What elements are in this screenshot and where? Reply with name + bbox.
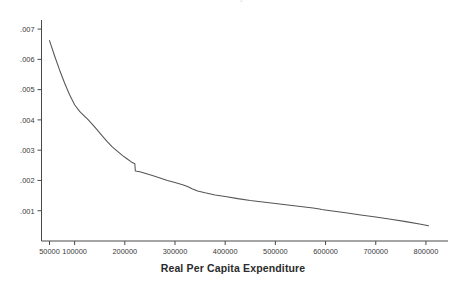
y-tick-label: .005	[20, 85, 34, 94]
y-tick-label: .002	[20, 176, 34, 185]
y-tick-label: .004	[20, 116, 34, 125]
x-tick-label: 200000	[112, 247, 137, 256]
x-tick-label: 100000	[62, 247, 87, 256]
x-tick-label: 700000	[363, 247, 388, 256]
x-tick-label: 50000	[39, 247, 60, 256]
y-tick-label: .003	[20, 146, 34, 155]
x-tick-labels: 5000010000020000030000040000050000060000…	[39, 247, 438, 256]
density-curve	[50, 41, 429, 226]
line-chart-svg: .001.002.003.004.005.006.007 50000100000…	[0, 6, 466, 256]
y-tick-label: .006	[20, 55, 34, 64]
y-tick-labels: .001.002.003.004.005.006.007	[20, 25, 34, 216]
x-tick-label: 500000	[263, 247, 288, 256]
y-tick-label: .001	[20, 207, 34, 216]
x-tick-label: 600000	[313, 247, 338, 256]
cut-off-title-text: Kernel Density Estimate	[0, 0, 466, 2]
x-tick-label: 800000	[414, 247, 439, 256]
y-tick-label: .007	[20, 25, 34, 34]
tick-marks	[38, 29, 426, 245]
x-tick-label: 300000	[163, 247, 188, 256]
x-axis-title: Real Per Capita Expenditure	[0, 262, 466, 274]
chart-figure: Kernel Density Estimate .001.002.003.004…	[0, 0, 466, 288]
plot-area: .001.002.003.004.005.006.007 50000100000…	[0, 6, 466, 256]
x-tick-label: 400000	[213, 247, 238, 256]
axis-lines	[42, 20, 449, 241]
